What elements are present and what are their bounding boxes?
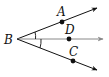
label-b: B [3, 33, 13, 47]
point-a [60, 20, 65, 25]
ray-bc [17, 39, 97, 70]
label-d: D [64, 23, 75, 37]
label-c: C [69, 45, 78, 59]
label-a: A [56, 5, 66, 19]
angle-bisector-diagram: B A D C [0, 0, 109, 77]
point-d [67, 37, 72, 42]
angle-arc-dbc [40, 39, 41, 48]
angle-arc-abd [35, 32, 36, 39]
point-c [71, 59, 76, 64]
